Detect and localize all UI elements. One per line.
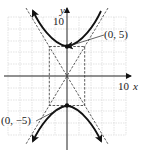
- vertex-top-label: (0, 5): [104, 28, 128, 41]
- y-tick-label: 10: [53, 15, 65, 27]
- vertex-top-point: [65, 44, 69, 48]
- x-tick-label: 10: [118, 80, 130, 92]
- leader-bottom: [36, 106, 65, 121]
- hyperbola-plot: y 10 10 x (0, 5) (0, −5): [0, 0, 146, 156]
- vertex-bottom-label: (0, −5): [1, 114, 31, 127]
- vertex-bottom-point: [65, 103, 69, 107]
- x-axis-label: x: [132, 80, 138, 92]
